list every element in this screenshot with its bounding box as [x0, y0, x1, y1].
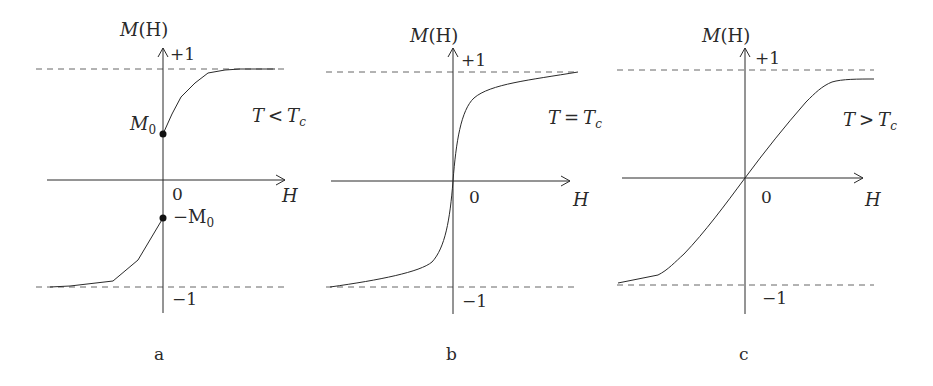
tick-label-minus-one: −1 [172, 289, 197, 309]
tick-label-minus-one: −1 [462, 291, 487, 311]
origin-label: 0 [172, 184, 183, 204]
neg-m0-label: −M0 [173, 206, 214, 230]
condition-label: T=Tc [548, 107, 602, 131]
tick-label-plus-one: +1 [461, 50, 486, 70]
x-axis-label: H [572, 189, 589, 210]
magnetization-curve [330, 72, 578, 287]
magnetization-curve-lower [50, 218, 163, 287]
x-axis-label: H [281, 185, 298, 206]
m0-point [160, 131, 167, 138]
panel-caption: b [446, 344, 457, 364]
m0-label: M0 [129, 113, 156, 137]
origin-label: 0 [761, 187, 772, 207]
condition-label: T>Tc [843, 109, 897, 133]
panel-a: M(H) +1 −1 0 H M0 −M0 T<Tc a [36, 19, 306, 364]
figure-canvas: M(H) +1 −1 0 H M0 −M0 T<Tc a M(H) +1 −1 … [0, 0, 933, 386]
y-axis-label: M(H) [701, 25, 750, 46]
y-axis-label: M(H) [409, 25, 458, 46]
origin-label: 0 [469, 187, 480, 207]
condition-label: T<Tc [252, 105, 306, 129]
neg-m0-point [160, 215, 167, 222]
panel-caption: a [154, 344, 164, 364]
tick-label-plus-one: +1 [755, 48, 780, 68]
panel-b: M(H) +1 −1 0 H T=Tc b [326, 25, 602, 364]
tick-label-plus-one: +1 [170, 44, 195, 64]
panel-caption: c [739, 344, 749, 364]
magnetization-curve [618, 79, 874, 283]
x-axis-label: H [864, 189, 881, 210]
y-axis-label: M(H) [119, 19, 168, 40]
panel-c: M(H) +1 −1 0 H T>Tc c [617, 25, 897, 364]
tick-label-minus-one: −1 [762, 288, 787, 308]
